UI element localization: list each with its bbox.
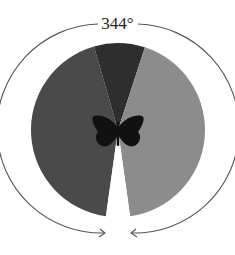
angle-label: 344° bbox=[0, 14, 235, 34]
visual-field-diagram bbox=[0, 0, 235, 255]
